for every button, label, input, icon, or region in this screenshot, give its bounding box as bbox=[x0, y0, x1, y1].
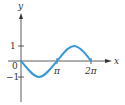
x-tick-label-2pi: 2π bbox=[84, 66, 98, 76]
x-tick-label-pi: π bbox=[53, 66, 61, 76]
y-axis-arrow-icon bbox=[19, 13, 23, 19]
y-tick-label-neg1: −1 bbox=[6, 72, 19, 82]
y-tick-label-1: 1 bbox=[10, 41, 16, 51]
origin-label: 0 bbox=[12, 61, 18, 71]
x-axis-arrow-icon bbox=[105, 59, 112, 63]
y-axis-label: y bbox=[17, 1, 24, 11]
plot-area: y x 1 −1 0 π 2π bbox=[0, 0, 125, 105]
x-axis-label: x bbox=[114, 56, 119, 66]
